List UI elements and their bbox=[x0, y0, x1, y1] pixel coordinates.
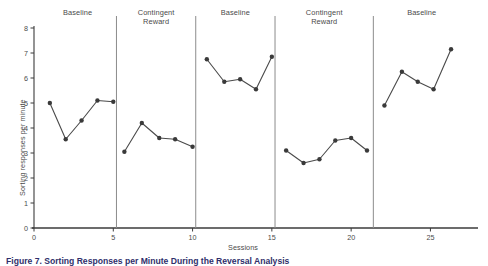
phase-label: Baseline bbox=[195, 8, 275, 17]
data-point-marker bbox=[190, 145, 194, 149]
data-point-marker bbox=[284, 148, 288, 152]
phase-label: Contingent Reward bbox=[116, 8, 196, 27]
x-tick-label: 25 bbox=[426, 233, 434, 242]
data-point-marker bbox=[301, 161, 305, 165]
data-point-marker bbox=[254, 87, 258, 91]
data-point-marker bbox=[431, 87, 435, 91]
x-tick-label: 5 bbox=[111, 233, 115, 242]
data-point-marker bbox=[205, 57, 209, 61]
data-point-marker bbox=[79, 118, 83, 122]
figure-caption: Figure 7. Sorting Responses per Minute D… bbox=[6, 256, 482, 266]
x-tick-label: 0 bbox=[32, 233, 36, 242]
data-point-marker bbox=[95, 98, 99, 102]
data-point-marker bbox=[270, 55, 274, 59]
data-point-marker bbox=[64, 137, 68, 141]
y-tick-label: 5 bbox=[24, 99, 28, 108]
y-tick-label: 2 bbox=[24, 174, 28, 183]
data-point-marker bbox=[157, 136, 161, 140]
data-point-marker bbox=[400, 70, 404, 74]
y-tick-label: 0 bbox=[24, 224, 28, 233]
data-point-marker bbox=[140, 121, 144, 125]
x-tick-label: 10 bbox=[189, 233, 197, 242]
x-tick-label: 15 bbox=[268, 233, 276, 242]
y-tick-label: 6 bbox=[24, 74, 28, 83]
data-point-marker bbox=[48, 101, 52, 105]
phase-label: Baseline bbox=[38, 8, 118, 17]
y-tick-label: 1 bbox=[24, 199, 28, 208]
series-line bbox=[207, 57, 272, 90]
y-tick-label: 7 bbox=[24, 49, 28, 58]
data-point-marker bbox=[111, 100, 115, 104]
data-point-marker bbox=[173, 137, 177, 141]
y-tick-label: 8 bbox=[24, 24, 28, 33]
y-tick-label: 3 bbox=[24, 149, 28, 158]
y-tick-label: 4 bbox=[24, 124, 28, 133]
data-point-marker bbox=[222, 80, 226, 84]
data-point-marker bbox=[238, 77, 242, 81]
figure-container: Sorting responses per minute 01234567805… bbox=[0, 0, 488, 266]
data-point-marker bbox=[449, 47, 453, 51]
data-point-marker bbox=[349, 136, 353, 140]
x-tick-label: 20 bbox=[347, 233, 355, 242]
phase-label: Baseline bbox=[382, 8, 462, 17]
line-chart-plot: 0123456780510152025 bbox=[0, 0, 488, 266]
phase-label: Contingent Reward bbox=[284, 8, 364, 27]
data-point-marker bbox=[317, 157, 321, 161]
data-point-marker bbox=[122, 150, 126, 154]
series-line bbox=[384, 49, 451, 105]
data-point-marker bbox=[365, 148, 369, 152]
data-point-marker bbox=[416, 80, 420, 84]
data-point-marker bbox=[333, 138, 337, 142]
x-axis-title: Sessions bbox=[228, 243, 258, 252]
data-point-marker bbox=[382, 103, 386, 107]
series-line bbox=[286, 138, 367, 163]
